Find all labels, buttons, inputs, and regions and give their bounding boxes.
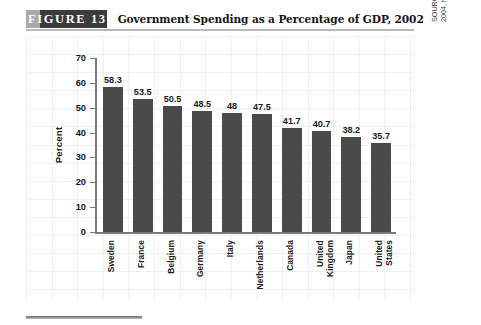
bar (133, 99, 153, 232)
bar (371, 143, 391, 232)
y-axis-tick-label: 50 (76, 103, 86, 113)
bar-value-label: 53.5 (134, 87, 152, 97)
bar-group: 48 (222, 101, 242, 232)
bar-value-label: 58.3 (104, 75, 122, 85)
x-axis-category-label: France (137, 240, 147, 268)
x-axis-category-label: Germany (196, 240, 206, 277)
y-axis-tick (90, 207, 95, 208)
bar-group: 58.3 (103, 75, 123, 232)
x-axis-category-label: United Kingdom (316, 240, 335, 277)
x-axis-category-label: Japan (345, 240, 355, 265)
y-axis-tick (90, 83, 95, 84)
bar-value-label: 35.7 (372, 131, 390, 141)
source-prefix: SOURCE: Organization for Economic Cooper… (430, 0, 439, 22)
y-axis-line (95, 58, 97, 232)
bar-value-label: 48.5 (193, 99, 211, 109)
y-axis-tick (90, 133, 95, 134)
y-axis-tick (90, 58, 95, 59)
bar-value-label: 48 (227, 101, 237, 111)
chart-panel: Percent 010203040506070 58.353.550.548.5… (26, 36, 414, 300)
bar-group: 35.7 (371, 131, 391, 232)
bar-group: 48.5 (192, 99, 212, 232)
x-axis-category-label: Canada (286, 240, 296, 271)
figure-header: FIGURE 13 Government Spending as a Perce… (26, 10, 414, 28)
bar (252, 114, 272, 232)
bar-group: 40.7 (312, 119, 332, 232)
x-axis-line (95, 232, 396, 234)
x-axis-category-label: Sweden (107, 240, 117, 272)
source-note: SOURCE: Organization for Economic Cooper… (430, 0, 476, 22)
y-axis-tick (90, 157, 95, 158)
y-axis-tick-label: 40 (76, 128, 86, 138)
y-axis-tick-label: 30 (76, 152, 86, 162)
y-axis-tick (90, 108, 95, 109)
bar (163, 106, 183, 232)
y-axis-tick-label: 0 (81, 227, 86, 237)
bar-value-label: 40.7 (313, 119, 331, 129)
bar-group: 50.5 (163, 94, 183, 232)
x-axis-category-label: Netherlands (256, 240, 266, 290)
bar-group: 38.2 (341, 125, 361, 232)
bottom-divider (26, 316, 142, 319)
x-axis-category-label: Italy (226, 240, 236, 257)
x-axis-category-label: Belgium (167, 240, 177, 274)
figure-number-badge: FIGURE 13 (26, 10, 107, 28)
y-axis-tick (90, 232, 95, 233)
bar-value-label: 47.5 (253, 102, 271, 112)
bar-group: 47.5 (252, 102, 272, 232)
bar (282, 128, 302, 232)
figure-title: Government Spending as a Percentage of G… (107, 10, 424, 28)
header-divider (26, 29, 414, 31)
bar-value-label: 38.2 (342, 125, 360, 135)
bar (103, 87, 123, 232)
bar-value-label: 41.7 (283, 116, 301, 126)
y-axis-tick-label: 70 (76, 53, 86, 63)
bar-group: 41.7 (282, 116, 302, 232)
bar (341, 137, 361, 232)
bar (192, 111, 212, 232)
plot-area: Percent 010203040506070 58.353.550.548.5… (98, 58, 396, 232)
y-axis-tick (90, 182, 95, 183)
figure-number-label: FIGURE 13 (26, 12, 107, 27)
bar-group: 53.5 (133, 87, 153, 232)
bar-value-label: 50.5 (164, 94, 182, 104)
y-axis-tick-label: 60 (76, 78, 86, 88)
bar (312, 131, 332, 232)
y-axis-title: Percent (53, 127, 64, 164)
y-axis-tick-label: 20 (76, 177, 86, 187)
bar-series: 58.353.550.548.54847.541.740.738.235.7 (98, 58, 396, 232)
x-axis-category-label: United States (375, 240, 394, 267)
y-axis-tick-label: 10 (76, 202, 86, 212)
bar (222, 113, 242, 232)
